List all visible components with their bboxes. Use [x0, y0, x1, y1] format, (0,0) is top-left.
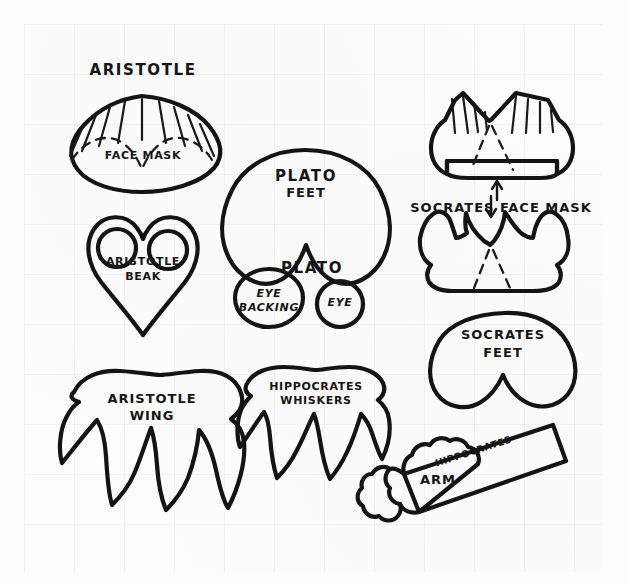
label-plato-eye-backing-line2: BACKING [239, 302, 299, 314]
label-hippocrates-arm-line2: ARM [420, 473, 456, 488]
up-arrow-icon [492, 181, 502, 200]
label-aristotle-beak-line1: ARISTOTLE [106, 256, 180, 268]
label-hippocrates-whiskers-line2: WHISKERS [280, 395, 351, 407]
label-aristotle-heading: ARISTOTLE [90, 62, 197, 79]
label-aristotle-face-mask: FACE MASK [105, 150, 181, 162]
label-socrates-feet-line1: SOCRATES [461, 328, 545, 343]
label-aristotle-wing-line1: ARISTOTLE [107, 392, 196, 407]
pattern-drawings [0, 0, 627, 585]
shape-aristotle-face-mask [70, 96, 220, 192]
label-plato-feet-line2: FEET [286, 186, 326, 201]
pattern-sheet: ARISTOTLE FACE MASK ARISTOTLE BEAK ARIST… [0, 0, 627, 585]
label-plato-eye-group-heading: PLATO [281, 260, 343, 277]
label-socrates-face-mask: SOCRATES FACE MASK [410, 201, 591, 216]
label-plato-eye: EYE [327, 297, 352, 309]
label-hippocrates-whiskers-line1: HIPPOCRATES [269, 381, 363, 393]
label-aristotle-beak-line2: BEAK [125, 271, 161, 283]
label-plato-feet-line1: PLATO [275, 168, 337, 185]
label-socrates-feet-line2: FEET [483, 346, 523, 361]
label-plato-eye-backing-line1: EYE [256, 288, 281, 300]
shape-socrates-face-mask [431, 93, 573, 200]
label-aristotle-wing-line2: WING [130, 409, 175, 424]
